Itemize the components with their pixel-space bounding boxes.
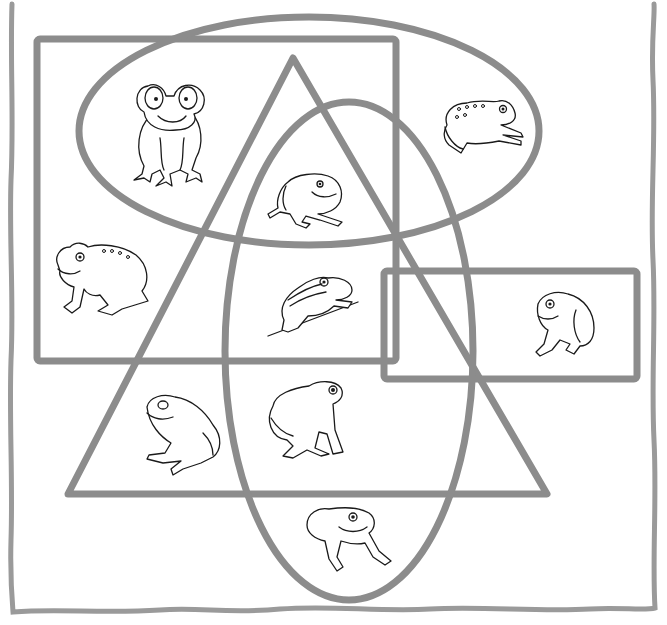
frog-1-illustration (134, 85, 204, 186)
frog-8-illustration (269, 382, 343, 458)
diagram-svg (0, 0, 667, 625)
frog-9-illustration (307, 508, 391, 571)
frog-5-illustration (268, 277, 358, 336)
frog-6-illustration (536, 292, 594, 356)
frog-2-illustration (444, 101, 523, 153)
frog-7-illustration (147, 395, 220, 475)
small-rectangle (384, 271, 637, 379)
worksheet-canvas: cartoon frog facing front, smiling spott… (0, 0, 667, 625)
frog-3-illustration (268, 174, 342, 228)
frog-4-illustration (57, 243, 148, 315)
